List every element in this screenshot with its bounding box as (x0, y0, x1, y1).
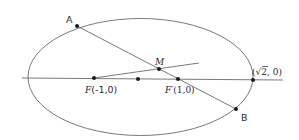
point-m (157, 67, 161, 71)
label-f: F(-1,0) (84, 84, 117, 95)
point-f-prime (176, 77, 180, 81)
point-b (234, 107, 238, 111)
line-f-m (94, 63, 199, 78)
chord-ab (77, 26, 236, 109)
label-m: M (154, 57, 165, 67)
point-a (75, 24, 79, 28)
point-f (92, 76, 96, 80)
label-a: A (66, 14, 73, 25)
label-vertex: (√2, 0) (252, 67, 282, 77)
label-vertex-sqrt2: √2 (256, 67, 267, 77)
x-axis-line (22, 78, 283, 80)
point-vertex (251, 78, 255, 82)
label-f-prime: F′(1,0) (164, 85, 195, 95)
point-origin (136, 77, 140, 81)
ellipse (28, 19, 253, 136)
label-f-prime-coords: (1,0) (173, 85, 194, 95)
label-f-coords: (-1,0) (91, 84, 117, 95)
label-f-prime-letter: F′ (164, 85, 173, 95)
label-vertex-rest: , 0) (267, 67, 282, 77)
label-b: B (241, 112, 248, 123)
ellipse-diagram: A B M F(-1,0) F′(1,0) (√2, 0) (0, 0, 299, 140)
